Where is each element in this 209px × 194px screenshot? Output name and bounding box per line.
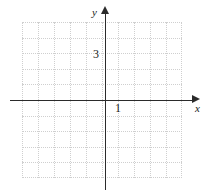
gridline-horizontal bbox=[22, 116, 182, 117]
x-axis-line bbox=[10, 100, 194, 101]
y-axis-tick-label-3: 3 bbox=[93, 48, 99, 60]
x-axis-label: x bbox=[195, 103, 200, 114]
gridline-horizontal bbox=[22, 162, 182, 163]
gridline-horizontal bbox=[22, 131, 182, 132]
x-axis-tick-label-1: 1 bbox=[115, 102, 121, 114]
gridline-horizontal bbox=[22, 22, 182, 23]
gridline-horizontal bbox=[22, 69, 182, 70]
gridline-horizontal bbox=[22, 177, 182, 178]
gridline-horizontal bbox=[22, 147, 182, 148]
coordinate-plane-figure: x y 3 1 bbox=[0, 0, 209, 194]
gridline-horizontal bbox=[22, 38, 182, 39]
y-axis-label: y bbox=[92, 7, 97, 18]
y-axis-line bbox=[105, 13, 106, 190]
arrow-up-icon bbox=[101, 6, 109, 14]
gridline-horizontal bbox=[22, 53, 182, 54]
gridline-horizontal bbox=[22, 84, 182, 85]
